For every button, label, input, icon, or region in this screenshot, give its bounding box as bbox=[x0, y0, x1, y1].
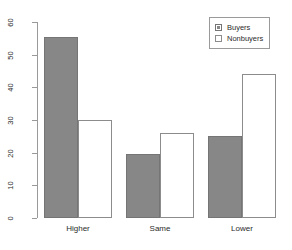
filled-square-icon bbox=[215, 24, 222, 31]
bar-same-nonbuyers bbox=[160, 133, 194, 218]
bar-lower-buyers bbox=[208, 136, 242, 218]
legend-item-nonbuyers: Nonbuyers bbox=[215, 33, 263, 44]
y-axis-line bbox=[37, 22, 38, 218]
x-axis-label-higher: Higher bbox=[48, 224, 108, 234]
legend-label-buyers: Buyers bbox=[227, 23, 250, 32]
y-tick-50 bbox=[32, 55, 37, 56]
y-tick-10 bbox=[32, 185, 37, 186]
x-axis-label-lower: Lower bbox=[212, 224, 272, 234]
y-tick-40 bbox=[32, 87, 37, 88]
x-axis-label-same: Same bbox=[130, 224, 190, 234]
y-tick-30 bbox=[32, 120, 37, 121]
legend-item-buyers: Buyers bbox=[215, 22, 263, 33]
y-tick-20 bbox=[32, 153, 37, 154]
bar-lower-nonbuyers bbox=[242, 74, 276, 218]
bar-same-buyers bbox=[126, 154, 160, 218]
plot-area: 0 10 20 30 40 50 60 Higher Same Lower Bu… bbox=[0, 0, 292, 250]
legend-label-nonbuyers: Nonbuyers bbox=[227, 34, 263, 43]
y-tick-60 bbox=[32, 22, 37, 23]
chart-legend: Buyers Nonbuyers bbox=[209, 17, 270, 49]
y-tick-label-60: 60 bbox=[6, 3, 15, 43]
bar-higher-nonbuyers bbox=[78, 120, 112, 218]
open-square-icon bbox=[215, 35, 222, 42]
bar-chart: 0 10 20 30 40 50 60 Higher Same Lower Bu… bbox=[0, 0, 292, 250]
bar-higher-buyers bbox=[44, 37, 78, 218]
y-tick-0 bbox=[32, 218, 37, 219]
